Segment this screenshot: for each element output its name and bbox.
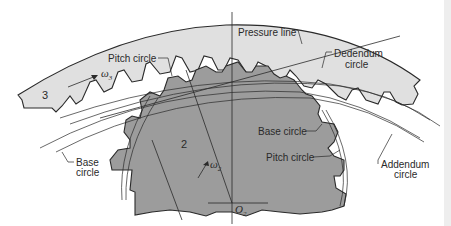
gear-2-label: 2	[181, 138, 187, 150]
gear-diagram: 3 ω3 2 ω2 O2 Pitch circle Pressure line …	[0, 0, 451, 226]
diagram-canvas: 3 ω3 2 ω2 O2 Pitch circle Pressure line …	[0, 0, 451, 226]
leader-base-circle-left	[62, 152, 74, 162]
dedendum-circle-label-line1: Dedendum	[334, 48, 383, 59]
base-circle-right-label: Base circle	[258, 126, 307, 137]
dedendum-circle-label-line2: circle	[345, 59, 369, 70]
gear-3-label: 3	[42, 89, 48, 101]
pitch-circle-right-label: Pitch circle	[266, 152, 315, 163]
pressure-line-label: Pressure line	[238, 27, 297, 38]
page-edge-strip	[444, 0, 451, 226]
base-circle-left-label-line2: circle	[76, 167, 100, 178]
pitch-circle-top-label: Pitch circle	[108, 53, 157, 64]
addendum-circle-label-line2: circle	[394, 169, 418, 180]
